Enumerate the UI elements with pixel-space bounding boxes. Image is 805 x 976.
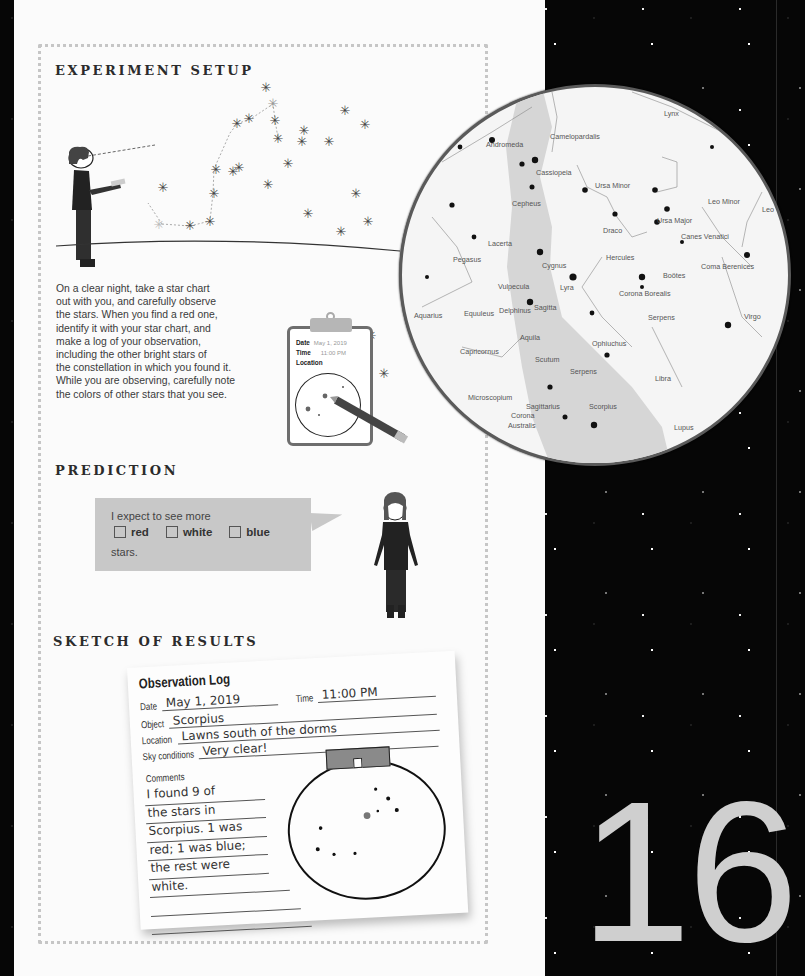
constellation-label: Lupus: [674, 423, 694, 432]
constellation-label: Hercules: [606, 253, 634, 262]
constellation-label: Microscopium: [468, 393, 512, 402]
section-title-results: SKETCH OF RESULTS: [53, 634, 258, 649]
constellation-label: Cygnus: [542, 261, 566, 270]
constellation-label: Virgo: [744, 312, 761, 321]
constellation-label: Boötes: [663, 271, 685, 280]
constellation-label: Lyra: [560, 283, 574, 292]
star-chart: LynxCamelopardalisAndromedaCassiopeiaUrs…: [399, 84, 791, 466]
constellation-label: Libra: [655, 374, 671, 383]
constellation-label: Leo Minor: [708, 197, 740, 206]
log-date-label: Date: [140, 700, 158, 712]
checkbox-blue[interactable]: [229, 526, 241, 538]
results-sketch-circle: [284, 756, 449, 904]
log-object-label: Object: [141, 718, 164, 730]
log-comments: I found 9 of the stars in Scorpius. 1 wa…: [144, 781, 272, 935]
constellation-label: Pegasus: [453, 255, 481, 264]
constellation-label: Ursa Minor: [595, 181, 630, 190]
log-sky-label: Sky conditions: [142, 749, 187, 762]
constellation-label: Vulpecula: [498, 282, 529, 291]
constellation-label: Coma Berenices: [701, 262, 754, 271]
constellation-label: Andromeda: [486, 140, 523, 149]
page-number: 16: [580, 772, 794, 972]
constellation-label: Aquarius: [414, 311, 442, 320]
option-blue-label: blue: [246, 526, 270, 538]
constellation-label: Serpens: [648, 313, 675, 322]
constellation-label: Corona Borealis: [619, 289, 671, 298]
constellation-label: Canes Venatici: [681, 232, 729, 241]
log-location-label: Location: [142, 734, 171, 746]
constellation-label: Capricornus: [460, 347, 499, 356]
prediction-intro: I expect to see more: [111, 510, 211, 522]
option-red-label: red: [131, 526, 149, 538]
section-title-prediction: PREDICTION: [55, 463, 178, 478]
log-time-label: Time: [296, 692, 314, 704]
observation-log-title: Observation Log: [138, 671, 230, 692]
constellation-label: Leo: [762, 205, 774, 214]
constellation-label: Ursa Major: [657, 216, 692, 225]
prediction-options: red white blue: [114, 526, 287, 538]
constellation-label: Camelopardalis: [550, 132, 600, 141]
option-blue[interactable]: blue: [229, 526, 270, 538]
constellation-label: Cassiopeia: [536, 168, 572, 177]
constellation-label: Delphinus: [499, 306, 531, 315]
sketch-stars: [284, 756, 449, 904]
constellation-label: Serpens: [570, 367, 597, 376]
constellation-label: Corona: [511, 411, 535, 420]
constellation-label: Australis: [508, 421, 536, 430]
constellation-label: Scutum: [535, 355, 559, 364]
constellation-label: Lacerta: [488, 239, 512, 248]
checkbox-white[interactable]: [166, 526, 178, 538]
constellation-label: Sagittarius: [526, 402, 560, 411]
prediction-outro: stars.: [111, 546, 138, 558]
option-white-label: white: [183, 526, 212, 538]
constellation-label: Cepheus: [512, 199, 541, 208]
constellation-label: Draco: [603, 226, 622, 235]
checkbox-red[interactable]: [114, 526, 126, 538]
constellation-label: Equuleus: [464, 309, 494, 318]
constellation-label: Aquila: [520, 333, 540, 342]
constellation-label: Lynx: [664, 109, 679, 118]
log-comments-label: Comments: [146, 771, 185, 784]
option-white[interactable]: white: [166, 526, 212, 538]
option-red[interactable]: red: [114, 526, 149, 538]
constellation-label: Sagitta: [534, 303, 556, 312]
observation-log-card: Observation Log Date May 1, 2019 Time 11…: [127, 651, 468, 930]
constellation-label: Ophiuchus: [592, 339, 626, 348]
constellation-label: Scorpius: [589, 402, 617, 411]
